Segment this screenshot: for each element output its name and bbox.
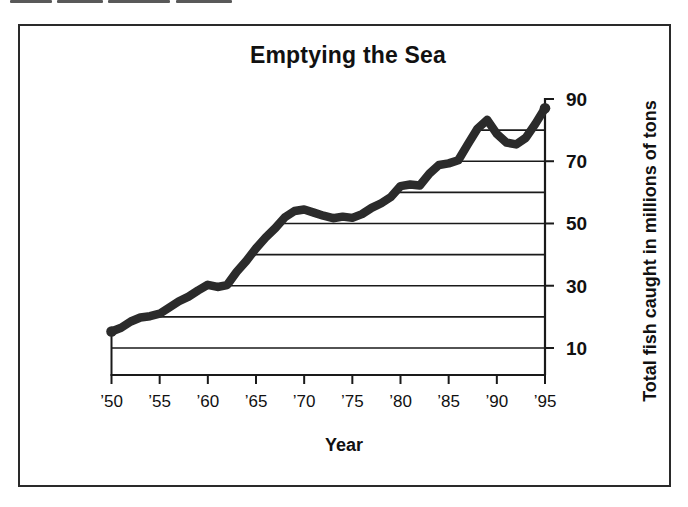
y-tick-label-10: 10 [566, 338, 587, 359]
x-tick-label-1975: ’75 [341, 392, 364, 411]
x-axis-title: Year [144, 435, 544, 456]
catch-data-line [112, 108, 546, 331]
y-tick-label-30: 30 [566, 276, 587, 297]
x-tick-label-1970: ’70 [293, 392, 316, 411]
y-tick-label-50: 50 [566, 213, 587, 234]
start-point-dot [106, 326, 117, 337]
y-tick-label-90: 90 [566, 89, 587, 110]
x-tick-label-1980: ’80 [389, 392, 412, 411]
x-tick-label-1955: ’55 [148, 392, 171, 411]
x-tick-label-1950: ’50 [100, 392, 123, 411]
x-tick-label-1960: ’60 [196, 392, 219, 411]
y-axis-title: Total fish caught in millions of tons [640, 100, 661, 402]
x-tick-label-1965: ’65 [245, 392, 268, 411]
y-tick-label-70: 70 [566, 151, 587, 172]
x-tick-label-1985: ’85 [437, 392, 460, 411]
end-point-dot [540, 103, 551, 114]
chart-plot: ’50’55’60’65’70’75’80’85’90’951030507090 [0, 0, 688, 507]
x-tick-label-1990: ’90 [485, 392, 508, 411]
x-tick-label-1995: ’95 [534, 392, 557, 411]
